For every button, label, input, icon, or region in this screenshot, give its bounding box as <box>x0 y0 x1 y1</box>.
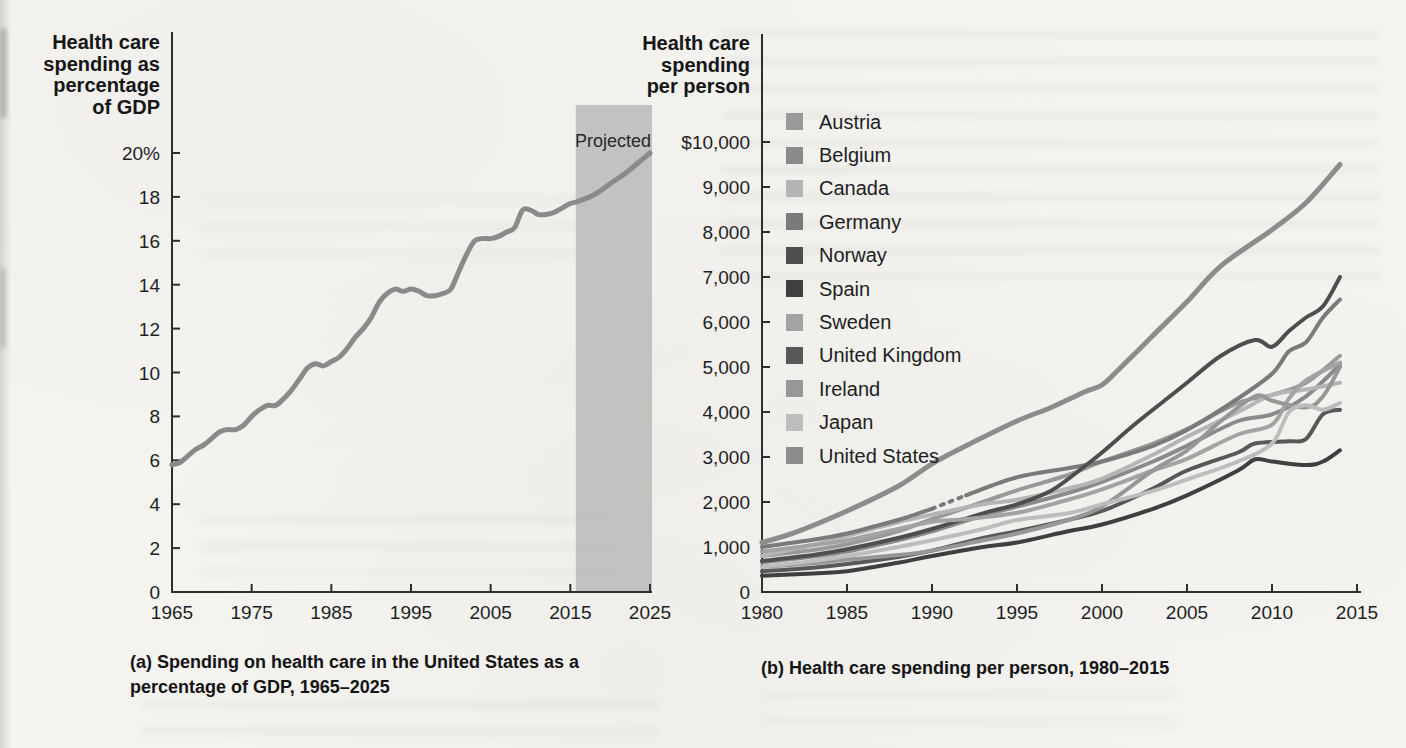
panel-b-y-tick-label: 2,000 <box>702 492 750 513</box>
panel-b-axis-title: Health care spending per person <box>558 33 750 98</box>
panel-a-y-tick-label: 6 <box>149 450 160 471</box>
panel-a-y-tick-label: 14 <box>139 275 161 296</box>
legend-swatch-austria <box>786 113 803 130</box>
panel-b-x-tick-label: 1990 <box>911 602 953 623</box>
panel-b-y-tick-label: 4,000 <box>702 402 750 423</box>
panel-a-y-tick-label: 0 <box>149 582 160 603</box>
panel-b-y-tick-label: $10,000 <box>681 132 750 153</box>
panel-a-projected-region <box>576 105 652 592</box>
panel-a-y-tick-label: 2 <box>149 538 160 559</box>
panel-b-caption: (b) Health care spending per person, 198… <box>761 656 1361 681</box>
panel-a-x-tick-label: 1985 <box>310 602 352 623</box>
legend-swatch-japan <box>786 414 803 431</box>
panel-a-y-tick-label: 4 <box>149 494 160 515</box>
legend-item-austria: Austria <box>786 105 961 138</box>
legend-swatch-spain <box>786 280 803 297</box>
panel-b-y-tick-label: 1,000 <box>702 537 750 558</box>
panel-a-y-tick-label: 20% <box>122 143 160 164</box>
legend-item-germany: Germany <box>786 205 961 238</box>
legend-label-spain: Spain <box>819 279 870 299</box>
textbook-figure-page: 1965197519851995200520152025024681012141… <box>0 0 1406 748</box>
legend-swatch-germany <box>786 213 803 230</box>
panel-a-y-tick-label: 12 <box>139 319 160 340</box>
legend-label-ireland: Ireland <box>819 379 880 399</box>
legend-swatch-norway <box>786 247 803 264</box>
series-line-germany <box>966 300 1340 496</box>
panel-a-caption: (a) Spending on health care in the Unite… <box>130 650 630 700</box>
panel-b-y-tick-label: 8,000 <box>702 222 750 243</box>
panel-b-y-tick-label: 7,000 <box>702 267 750 288</box>
panel-b-x-tick-label: 2000 <box>1081 602 1123 623</box>
panel-b-y-tick-label: 5,000 <box>702 357 750 378</box>
panel-b-x-tick-label: 1985 <box>826 602 868 623</box>
legend-item-ireland: Ireland <box>786 372 961 405</box>
legend-label-norway: Norway <box>819 245 887 265</box>
legend-item-japan: Japan <box>786 406 961 439</box>
legend-swatch-united-states <box>786 447 803 464</box>
panel-b-x-tick-label: 1995 <box>996 602 1038 623</box>
legend-swatch-belgium <box>786 147 803 164</box>
legend-item-canada: Canada <box>786 172 961 205</box>
panel-a-x-tick-label: 2015 <box>549 602 591 623</box>
legend-swatch-sweden <box>786 314 803 331</box>
legend-item-norway: Norway <box>786 239 961 272</box>
legend-item-spain: Spain <box>786 272 961 305</box>
panel-a-y-tick-label: 16 <box>139 231 160 252</box>
charts-canvas: 1965197519851995200520152025024681012141… <box>0 0 1406 748</box>
legend-swatch-canada <box>786 180 803 197</box>
panel-a-y-tick-label: 10 <box>139 363 160 384</box>
panel-b-x-tick-label: 2010 <box>1251 602 1293 623</box>
projected-region-label: Projected <box>567 131 659 152</box>
panel-b-y-tick-label: 9,000 <box>702 177 750 198</box>
legend-label-united-kingdom: United Kingdom <box>819 345 961 365</box>
legend-label-germany: Germany <box>819 212 901 232</box>
panel-a-axis-title: Health care spending as percentage of GD… <box>28 32 160 118</box>
legend-item-united-states: United States <box>786 439 961 472</box>
panel-a-y-tick-label: 18 <box>139 187 160 208</box>
panel-b-y-tick-label: 6,000 <box>702 312 750 333</box>
panel-b-x-tick-label: 2005 <box>1166 602 1208 623</box>
legend-item-belgium: Belgium <box>786 138 961 171</box>
legend-label-austria: Austria <box>819 112 881 132</box>
legend-label-belgium: Belgium <box>819 145 891 165</box>
legend-swatch-united-kingdom <box>786 347 803 364</box>
legend-label-canada: Canada <box>819 178 889 198</box>
panel-a-x-tick-label: 2005 <box>470 602 512 623</box>
panel-a-y-tick-label: 8 <box>149 406 160 427</box>
panel-b-x-tick-label: 2015 <box>1336 602 1378 623</box>
panel-b-y-tick-label: 0 <box>739 582 750 603</box>
panel-a-x-tick-label: 1975 <box>231 602 273 623</box>
legend-item-sweden: Sweden <box>786 305 961 338</box>
legend-label-japan: Japan <box>819 412 874 432</box>
panel-a-x-tick-label: 2025 <box>629 602 671 623</box>
legend-item-united-kingdom: United Kingdom <box>786 339 961 372</box>
legend-label-united-states: United States <box>819 446 939 466</box>
legend-label-sweden: Sweden <box>819 312 891 332</box>
legend-swatch-ireland <box>786 380 803 397</box>
panel-b-x-tick-label: 1980 <box>741 602 783 623</box>
panel-a-x-tick-label: 1995 <box>390 602 432 623</box>
panel-b-y-tick-label: 3,000 <box>702 447 750 468</box>
panel-b-legend: AustriaBelgiumCanadaGermanyNorwaySpainSw… <box>786 105 961 472</box>
panel-a-x-tick-label: 1965 <box>151 602 193 623</box>
